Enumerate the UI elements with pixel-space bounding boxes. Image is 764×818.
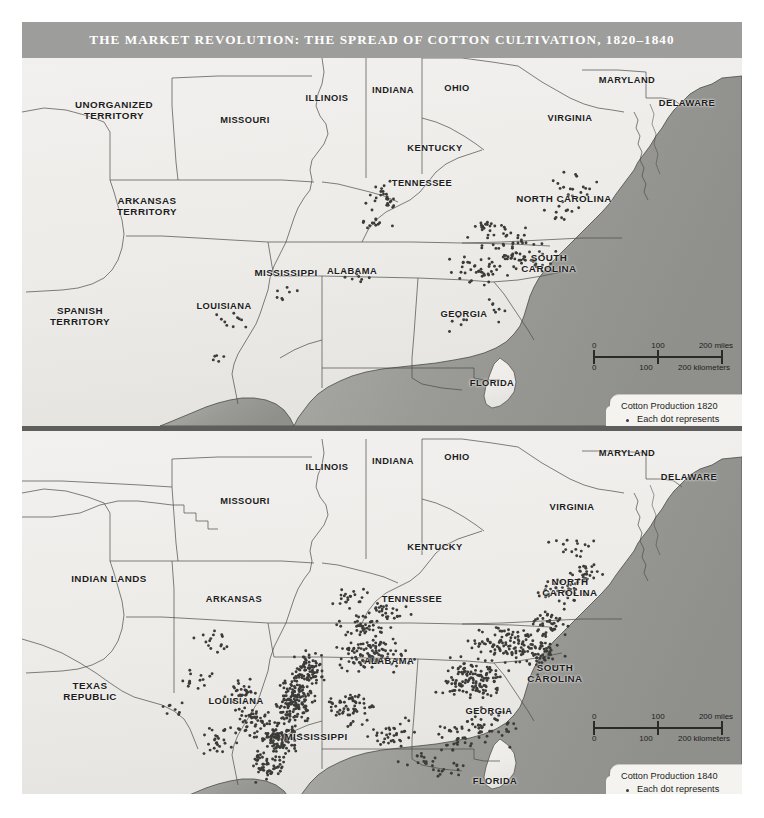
scale-label: 200 miles bbox=[699, 712, 733, 721]
scale-label: 100 bbox=[639, 734, 652, 743]
scale-tick bbox=[657, 728, 659, 735]
page-title: THE MARKET REVOLUTION: THE SPREAD OF COT… bbox=[22, 22, 742, 58]
legend-dot-icon bbox=[626, 789, 629, 792]
scale-label: 0 bbox=[592, 341, 596, 350]
page-root: THE MARKET REVOLUTION: THE SPREAD OF COT… bbox=[0, 0, 764, 818]
scale-label: 0 bbox=[592, 712, 596, 721]
scale-label: 100 bbox=[651, 712, 664, 721]
scale-tick bbox=[657, 350, 659, 357]
legend-title: Cotton Production 1840 bbox=[621, 771, 718, 781]
scale-tick bbox=[657, 721, 659, 728]
map-figure: THE MARKET REVOLUTION: THE SPREAD OF COT… bbox=[22, 22, 742, 794]
legend-1840: Cotton Production 1840 Each dot represen… bbox=[610, 764, 742, 794]
scale-tick bbox=[657, 357, 659, 364]
scale-tick bbox=[721, 350, 723, 357]
scale-label: 200 kilometers bbox=[678, 734, 730, 743]
scale-tick bbox=[721, 721, 723, 728]
map-panel-1840: ILLINOISINDIANAOHIOMARYLANDDELAWAREMISSO… bbox=[22, 431, 742, 794]
scale-tick bbox=[593, 721, 595, 728]
scale-tick bbox=[593, 350, 595, 357]
legend-entry-text: Each dot represents 2,000 bales of cotto… bbox=[637, 784, 722, 794]
scale-label: 200 miles bbox=[699, 341, 733, 350]
legend-1820: Cotton Production 1820 Each dot represen… bbox=[610, 394, 742, 426]
scale-label: 0 bbox=[592, 734, 596, 743]
legend-entry-text: Each dot represents 2,000 bales of cotto… bbox=[637, 414, 722, 426]
scale-bar-1840: 0100200 miles0100200 kilometers bbox=[588, 712, 728, 746]
scale-label: 100 bbox=[639, 363, 652, 372]
scale-bar-1820: 0100200 miles0100200 kilometers bbox=[588, 341, 728, 375]
scale-label: 0 bbox=[592, 363, 596, 372]
scale-label: 100 bbox=[651, 341, 664, 350]
map-title-bar: THE MARKET REVOLUTION: THE SPREAD OF COT… bbox=[22, 22, 742, 58]
map-panel-1820: UNORGANIZED TERRITORYMISSOURIILLINOISIND… bbox=[22, 58, 742, 426]
scale-label: 200 kilometers bbox=[678, 363, 730, 372]
legend-title: Cotton Production 1820 bbox=[621, 401, 718, 411]
legend-dot-icon bbox=[626, 419, 629, 422]
